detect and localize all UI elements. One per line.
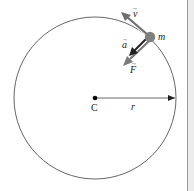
radius-label: r bbox=[131, 101, 135, 112]
center-point bbox=[93, 96, 98, 101]
acceleration-arrow-accent: → bbox=[122, 36, 128, 42]
force-arrow-accent: → bbox=[131, 60, 137, 66]
mass-label: m bbox=[158, 31, 165, 42]
mass-particle bbox=[145, 32, 155, 42]
center-label: C bbox=[91, 102, 98, 113]
diagram-svg: m v → a → F → C r bbox=[0, 0, 194, 191]
velocity-arrow-accent: → bbox=[132, 5, 138, 11]
circular-motion-diagram: m v → a → F → C r bbox=[0, 0, 194, 191]
page-edge-panel bbox=[187, 0, 194, 191]
